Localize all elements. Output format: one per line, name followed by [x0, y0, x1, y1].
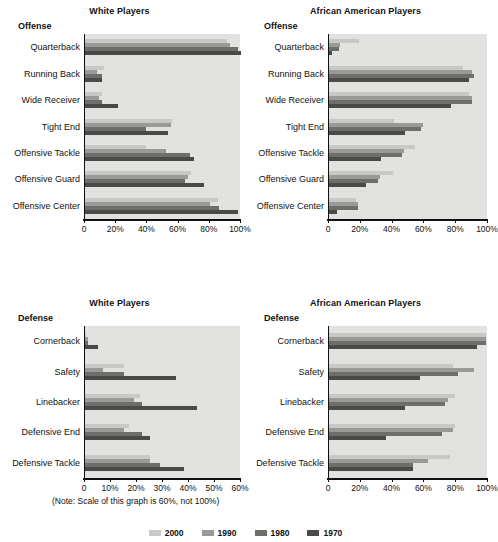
bar-1970 [85, 376, 176, 380]
axis-tick-label: 0 [82, 483, 87, 493]
category-label: Offensive Tackle [14, 148, 80, 158]
bar-1970 [85, 131, 168, 135]
axis-tick [360, 478, 361, 482]
bar-group [85, 92, 240, 108]
axis-tick-label: 20% [127, 483, 144, 493]
value-axis: 020%40%60%80%100% [328, 219, 487, 237]
bar-1970 [329, 467, 413, 471]
bar-group [85, 66, 240, 82]
axis-tick-label: 0 [326, 224, 331, 234]
axis-tick [162, 478, 163, 482]
axis-line [83, 219, 241, 221]
axis-tick [110, 478, 111, 482]
bar-1970 [329, 183, 366, 187]
category-label: Safety [298, 367, 324, 377]
legend-item: 1990 [202, 528, 237, 538]
axis-tick-label: 40% [138, 224, 155, 234]
bar-group [85, 455, 240, 471]
chart-title: African American Players [246, 298, 485, 308]
axis-tick-label: 60% [169, 224, 186, 234]
category-axis-labels: QuarterbackRunning BackWide ReceiverTigh… [246, 34, 324, 219]
chart-subtitle: Defense [264, 313, 299, 323]
chart-panel-offense-african-american: African American Players Offense Quarter… [246, 0, 491, 250]
bar-group [329, 198, 487, 214]
axis-tick [240, 478, 241, 482]
chart-title: White Players [0, 6, 239, 16]
category-label: Offensive Center [13, 201, 80, 211]
category-label: Running Back [268, 69, 324, 79]
chart-subtitle: Defense [18, 313, 53, 323]
category-label: Cornerback [277, 336, 324, 346]
axis-tick [214, 478, 215, 482]
bar-group [329, 92, 487, 108]
legend-label: 1970 [323, 528, 342, 538]
axis-tick-label: 0 [326, 483, 331, 493]
bar-group [85, 394, 240, 410]
category-label: Defensive Tackle [12, 458, 80, 468]
axis-tick [115, 219, 116, 223]
category-label: Defensive End [21, 427, 80, 437]
axis-line [327, 478, 488, 480]
chart-title: African American Players [246, 6, 485, 16]
legend-item: 2000 [149, 528, 184, 538]
bar-1970 [329, 157, 381, 161]
axis-tick [328, 478, 329, 482]
legend-label: 1980 [271, 528, 290, 538]
axis-tick-label: 80% [447, 483, 464, 493]
legend-item: 1980 [255, 528, 290, 538]
plot-area [328, 326, 487, 478]
bar-group [85, 39, 240, 55]
axis-tick-label: 10% [101, 483, 118, 493]
axis-tick-label: 30% [153, 483, 170, 493]
axis-tick [455, 219, 456, 223]
axis-tick-label: 60% [415, 224, 432, 234]
category-label: Offensive Tackle [258, 148, 324, 158]
axis-tick [392, 478, 393, 482]
category-label: Defensive End [265, 427, 324, 437]
axis-tick-label: 0 [82, 224, 87, 234]
legend-label: 1990 [218, 528, 237, 538]
bar-group [329, 333, 487, 349]
axis-tick [178, 219, 179, 223]
category-label: Offensive Guard [259, 174, 324, 184]
bar-1970 [85, 210, 238, 214]
axis-tick [360, 219, 361, 223]
axis-tick [209, 219, 210, 223]
bar-group [329, 455, 487, 471]
chart-panel-defense-white: White Players Defense CornerbackSafetyLi… [0, 292, 245, 518]
bar-1970 [85, 345, 98, 349]
value-axis: 010%20%30%40%50%60% [84, 478, 240, 496]
bar-group [85, 333, 240, 349]
bar-1970 [329, 51, 332, 55]
category-label: Wide Receiver [265, 95, 324, 105]
category-label: Defensive Tackle [256, 458, 324, 468]
plot-area [84, 326, 240, 478]
chart-panel-offense-white: White Players Offense QuarterbackRunning… [0, 0, 245, 250]
bar-group [329, 145, 487, 161]
bar-group [85, 119, 240, 135]
category-label: Quarterback [274, 42, 324, 52]
category-axis-labels: CornerbackSafetyLinebackerDefensive EndD… [0, 326, 80, 511]
legend-item: 1970 [307, 528, 342, 538]
bar-1970 [85, 51, 241, 55]
plot-area [84, 34, 240, 219]
axis-tick [423, 219, 424, 223]
axis-tick [84, 478, 85, 482]
axis-tick-label: 20% [107, 224, 124, 234]
axis-tick-label: 40% [383, 483, 400, 493]
axis-tick-label: 20% [351, 224, 368, 234]
bar-group [329, 364, 487, 380]
bar-1970 [329, 376, 420, 380]
bar-1970 [329, 406, 405, 410]
axis-tick [455, 478, 456, 482]
value-axis: 020%40%60%80%100% [328, 478, 487, 496]
category-label: Offensive Center [257, 201, 324, 211]
bar-group [329, 39, 487, 55]
bar-1970 [85, 467, 184, 471]
category-label: Quarterback [30, 42, 80, 52]
bar-1970 [329, 210, 337, 214]
category-label: Wide Receiver [21, 95, 80, 105]
category-label: Linebacker [36, 397, 80, 407]
category-label: Safety [54, 367, 80, 377]
bar-1970 [85, 406, 197, 410]
